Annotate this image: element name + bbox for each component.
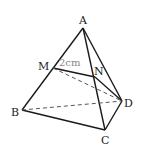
edge-ab: [22, 28, 83, 110]
label-n: N: [94, 65, 104, 78]
edge-nd: [95, 77, 122, 101]
edge-bd-dashed: [22, 101, 122, 110]
tetrahedron-diagram: A M N B C D 2cm: [0, 0, 145, 152]
edge-cd: [105, 101, 122, 130]
label-a: A: [78, 14, 88, 27]
edge-ac: [83, 28, 105, 130]
edge-md-dashed: [53, 68, 122, 101]
label-b: B: [11, 106, 19, 119]
label-c: C: [101, 134, 109, 147]
edge-bc: [22, 110, 105, 130]
label-m: M: [38, 60, 49, 73]
measurement-mn: 2cm: [59, 57, 81, 68]
label-d: D: [124, 97, 133, 110]
edge-mn: [53, 68, 95, 77]
